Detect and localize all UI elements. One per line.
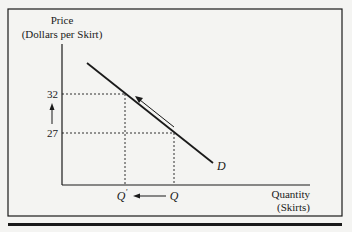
demand-curve-label: D [216,159,226,173]
y-axis-unit: (Dollars per Skirt) [22,28,103,41]
tick-q: Q [170,189,179,203]
tick-q-prime: Q' [117,188,128,203]
x-axis-title: Quantity [272,188,311,200]
demand-chart: Price (Dollars per Skirt) 32 27 D Q' Q Q… [0,0,352,232]
x-axis-unit: (Skirts) [277,201,310,214]
y-axis-title: Price [51,14,74,26]
tick-32: 32 [47,88,58,100]
quantity-left-arrow-icon [133,194,140,199]
tick-27: 27 [47,127,59,139]
bottom-rule [8,223,342,226]
movement-arrow-shaft [140,100,174,127]
price-up-arrow-icon [50,103,55,110]
demand-curve [87,63,213,163]
